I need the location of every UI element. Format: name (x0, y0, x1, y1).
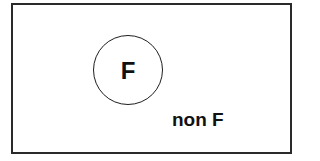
set-f-circle: F (93, 35, 163, 105)
complement-label: non F (172, 110, 224, 129)
set-f-label: F (121, 59, 136, 83)
